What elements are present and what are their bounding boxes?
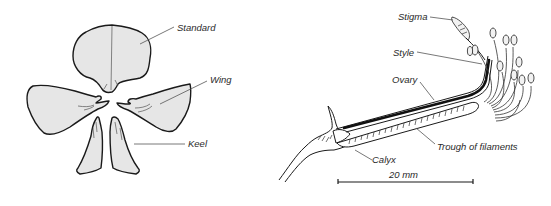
column-diagram: Stigma Style Ovary Trough of filaments C…: [279, 11, 534, 184]
scale-bar-label: 20 mm: [388, 169, 418, 180]
petal-diagram: Standard Wing Keel: [27, 22, 232, 174]
anther: [467, 47, 472, 56]
anther: [519, 75, 525, 85]
trough-label: Trough of filaments: [437, 141, 518, 152]
standard-label: Standard: [177, 22, 216, 33]
trough-leader-line: [416, 128, 435, 144]
anther: [497, 61, 503, 71]
anther: [528, 73, 534, 83]
calyx-label: Calyx: [372, 154, 397, 165]
right-wing-petal: [117, 84, 191, 131]
left-keel-petal: [77, 117, 103, 174]
keel-label: Keel: [188, 138, 208, 149]
standard-petal: [73, 25, 151, 92]
anther: [503, 35, 509, 45]
diagram-canvas: Standard Wing Keel: [0, 0, 551, 206]
wing-label: Wing: [210, 74, 232, 85]
anther: [516, 57, 522, 67]
calyx-leader-line: [355, 150, 372, 160]
stigma-label: Stigma: [398, 11, 428, 22]
ovary-leader-line: [420, 82, 434, 100]
anther: [511, 35, 517, 45]
anther: [511, 70, 517, 80]
style-label: Style: [393, 47, 414, 58]
stigma-leader-line: [430, 17, 453, 20]
anther: [490, 28, 496, 38]
right-keel-petal: [110, 117, 139, 174]
ovary-label: Ovary: [392, 74, 419, 85]
scale-bar: 20 mm: [338, 169, 473, 184]
